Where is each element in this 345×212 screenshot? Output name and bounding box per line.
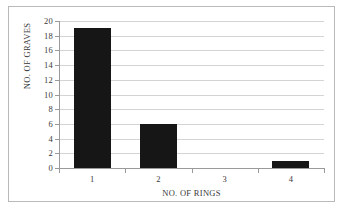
y-axis-tick — [55, 139, 59, 140]
x-axis-tick — [192, 168, 193, 173]
x-axis-tick — [324, 168, 325, 173]
y-axis-tick — [55, 80, 59, 81]
x-axis-tick — [125, 168, 126, 173]
y-axis-tick-label: 6 — [13, 120, 53, 129]
y-axis-tick — [55, 21, 59, 22]
y-axis-tick-label: 4 — [13, 134, 53, 143]
x-axis-tick — [258, 168, 259, 173]
y-axis-tick-label: 0 — [13, 164, 53, 173]
y-axis-tick-label: 12 — [13, 76, 53, 85]
bar-1 — [74, 28, 111, 168]
y-axis-tick — [55, 36, 59, 37]
y-axis-tick-label: 10 — [13, 90, 53, 99]
plot-area — [59, 21, 324, 168]
x-axis-tick — [59, 168, 60, 173]
y-axis-tick-label: 20 — [13, 17, 53, 26]
bar-4 — [272, 161, 309, 168]
gridline — [59, 21, 324, 22]
y-axis-line — [59, 21, 60, 169]
y-axis-tick — [55, 65, 59, 66]
y-axis-tick — [55, 50, 59, 51]
x-axis-tick-label: 4 — [289, 175, 293, 184]
y-axis-title: NO. OF GRAVES — [22, 0, 32, 116]
figure-frame: 02468101214161820 NO. OF GRAVES NO. OF R… — [8, 6, 335, 202]
y-axis-tick — [55, 109, 59, 110]
x-axis-tick-label: 2 — [156, 175, 160, 184]
x-axis-tick-label: 3 — [223, 175, 227, 184]
y-axis-tick-label: 8 — [13, 105, 53, 114]
y-axis-tick-label: 14 — [13, 61, 53, 70]
y-axis-tick-label: 2 — [13, 149, 53, 158]
y-axis-tick-label: 18 — [13, 31, 53, 40]
y-axis-tick — [55, 153, 59, 154]
y-axis-tick-label: 16 — [13, 46, 53, 55]
x-axis-title: NO. OF RINGS — [59, 188, 324, 198]
x-axis-tick-label: 1 — [90, 175, 94, 184]
bar-chart: 02468101214161820 NO. OF GRAVES NO. OF R… — [9, 7, 334, 201]
y-axis-tick — [55, 124, 59, 125]
y-axis-tick — [55, 95, 59, 96]
bar-2 — [140, 124, 177, 168]
